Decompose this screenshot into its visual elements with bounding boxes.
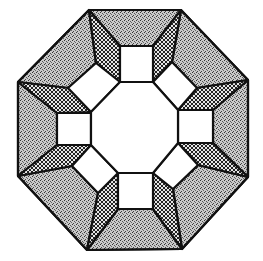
octagonal-ring-diagram [0, 0, 263, 261]
square-right [178, 110, 213, 143]
square-bottom [118, 173, 153, 209]
square-top [120, 46, 153, 82]
square-left [57, 113, 91, 145]
